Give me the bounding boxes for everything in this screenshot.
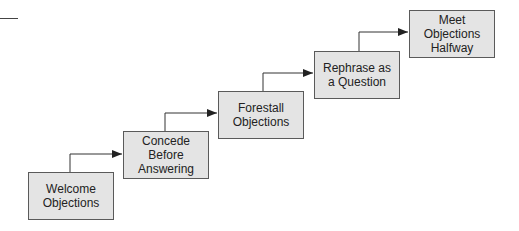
- step-forestall-objections: Forestall Objections: [218, 91, 304, 139]
- connector-4-5: [359, 32, 408, 51]
- connector-3-4: [263, 73, 313, 91]
- connector-1-2: [70, 154, 122, 172]
- step-label: Welcome Objections: [43, 182, 100, 210]
- step-label: Rephrase as a Question: [323, 61, 391, 89]
- step-label: Concede Before Answering: [138, 134, 194, 176]
- step-meet-objections-halfway: Meet Objections Halfway: [409, 10, 495, 58]
- connector-2-3: [165, 113, 217, 131]
- step-label: Meet Objections Halfway: [424, 13, 481, 55]
- step-label: Forestall Objections: [233, 101, 290, 129]
- step-welcome-objections: Welcome Objections: [28, 172, 114, 220]
- step-rephrase-as-question: Rephrase as a Question: [314, 51, 400, 99]
- step-concede-before-answering: Concede Before Answering: [123, 131, 209, 179]
